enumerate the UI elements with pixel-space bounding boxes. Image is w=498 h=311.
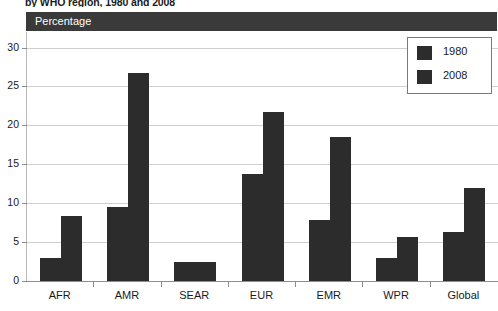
bar-global-1980 (443, 232, 464, 281)
bar-sear-2008 (195, 262, 216, 281)
x-tick-mark (430, 281, 431, 287)
x-tick-label-eur: EUR (228, 289, 295, 301)
y-tick-label: 15 (0, 157, 19, 169)
y-tick-mark (22, 242, 27, 243)
bar-afr-2008 (61, 216, 82, 281)
figure-title: by WHO region, 1980 and 2008 (25, 0, 175, 7)
legend-swatch-1980 (417, 46, 432, 60)
bar-afr-1980 (40, 258, 61, 281)
bar-emr-1980 (309, 220, 330, 281)
legend: 1980 2008 (407, 37, 492, 94)
x-tick-label-amr: AMR (93, 289, 160, 301)
bar-wpr-2008 (397, 237, 418, 281)
x-tick-mark (295, 281, 296, 287)
legend-label-2008: 2008 (443, 69, 467, 81)
bar-sear-1980 (174, 262, 195, 281)
y-tick-mark (22, 203, 27, 204)
bar-emr-2008 (330, 137, 351, 281)
x-tick-label-sear: SEAR (161, 289, 228, 301)
y-tick-mark (22, 125, 27, 126)
y-tick-mark (22, 86, 27, 87)
x-tick-mark (161, 281, 162, 287)
x-axis: AFRAMRSEAREUREMRWPRGlobal (26, 281, 497, 311)
bar-amr-2008 (128, 73, 149, 281)
y-axis-title: Percentage (35, 15, 91, 27)
y-tick-label: 10 (0, 196, 19, 208)
bar-eur-1980 (242, 174, 263, 281)
y-tick-label: 0 (0, 274, 19, 286)
y-tick-label: 25 (0, 79, 19, 91)
bar-eur-2008 (263, 112, 284, 281)
x-tick-label-global: Global (430, 289, 497, 301)
x-tick-mark (362, 281, 363, 287)
x-tick-label-emr: EMR (295, 289, 362, 301)
x-tick-label-wpr: WPR (362, 289, 429, 301)
y-axis-title-band: Percentage (26, 12, 497, 31)
x-tick-mark (228, 281, 229, 287)
y-tick-mark (22, 164, 27, 165)
y-tick-label: 30 (0, 41, 19, 53)
y-tick-mark (22, 48, 27, 49)
bar-global-2008 (464, 188, 485, 281)
x-tick-label-afr: AFR (26, 289, 93, 301)
bar-amr-1980 (107, 207, 128, 281)
x-tick-mark (93, 281, 94, 287)
legend-label-1980: 1980 (443, 45, 467, 57)
legend-swatch-2008 (417, 70, 432, 84)
y-tick-label: 5 (0, 235, 19, 247)
bar-wpr-1980 (376, 258, 397, 281)
y-tick-label: 20 (0, 118, 19, 130)
